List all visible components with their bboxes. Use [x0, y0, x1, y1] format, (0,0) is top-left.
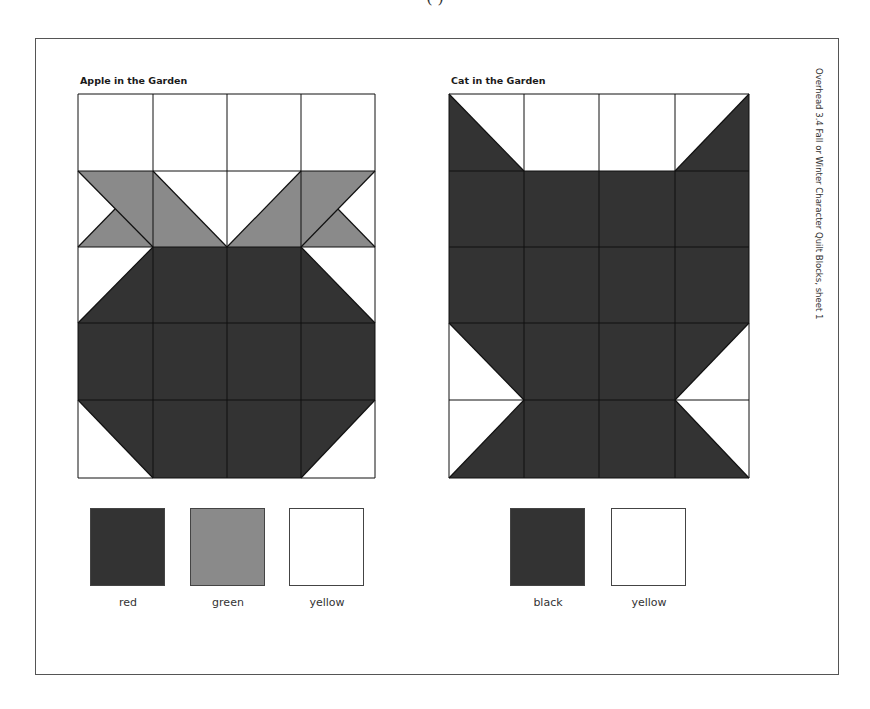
swatch-yellow: [611, 508, 686, 586]
swatch-label: yellow: [599, 596, 699, 609]
swatch-red: [90, 508, 165, 586]
swatch-label: yellow: [277, 596, 377, 609]
swatch-green: [190, 508, 265, 586]
swatch-yellow: [289, 508, 364, 586]
cat-quilt-block: [449, 94, 749, 478]
swatch-label: red: [78, 596, 178, 609]
swatch-black: [510, 508, 585, 586]
apple-quilt-block: [78, 94, 375, 478]
swatch-label: green: [178, 596, 278, 609]
swatch-label: black: [498, 596, 598, 609]
